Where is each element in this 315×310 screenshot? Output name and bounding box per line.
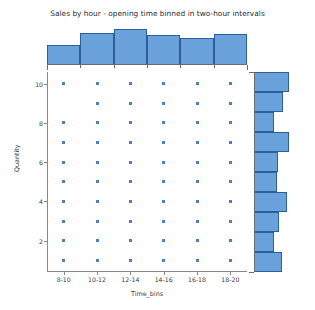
x-axis-tick-label: 18-20 bbox=[221, 276, 239, 283]
scatter-point bbox=[196, 180, 199, 183]
scatter-point bbox=[229, 180, 232, 183]
right-histogram-bar bbox=[254, 252, 282, 272]
y-axis-tick-label: 2 bbox=[39, 237, 43, 244]
x-axis-tick bbox=[130, 272, 131, 275]
right-histogram-bar bbox=[254, 72, 289, 92]
scatter-point bbox=[129, 259, 132, 262]
x-axis-tick bbox=[164, 272, 165, 275]
right-histogram-bar bbox=[254, 172, 277, 192]
scatter-point bbox=[129, 220, 132, 223]
scatter-point bbox=[96, 102, 99, 105]
top-histogram-bar bbox=[114, 29, 147, 65]
top-histogram-bar bbox=[147, 35, 180, 65]
scatter-point bbox=[162, 82, 165, 85]
chart-title: Sales by hour - opening time binned in t… bbox=[0, 9, 315, 18]
scatter-point bbox=[96, 180, 99, 183]
top-histogram-tick bbox=[180, 65, 181, 68]
scatter-point bbox=[162, 102, 165, 105]
x-axis-tick-label: 12-14 bbox=[121, 276, 139, 283]
scatter-point bbox=[96, 121, 99, 124]
scatter-point bbox=[129, 82, 132, 85]
scatter-point bbox=[129, 180, 132, 183]
top-histogram-end-tick bbox=[47, 65, 48, 70]
scatter-point bbox=[62, 200, 65, 203]
scatter-point bbox=[62, 161, 65, 164]
top-histogram-end-tick bbox=[247, 65, 248, 70]
scatter-point bbox=[229, 220, 232, 223]
scatter-point bbox=[196, 259, 199, 262]
scatter-point bbox=[196, 121, 199, 124]
top-histogram-bars bbox=[47, 26, 247, 65]
scatter-point bbox=[96, 141, 99, 144]
joint-plot-figure: Sales by hour - opening time binned in t… bbox=[0, 0, 315, 310]
scatter-point bbox=[196, 220, 199, 223]
right-histogram-end-tick bbox=[249, 272, 254, 273]
scatter-point bbox=[129, 161, 132, 164]
scatter-point bbox=[96, 259, 99, 262]
scatter-point bbox=[96, 200, 99, 203]
scatter-point bbox=[62, 239, 65, 242]
y-axis-tick bbox=[44, 123, 47, 124]
y-axis-title: Quantity bbox=[13, 144, 21, 172]
scatter-point bbox=[162, 141, 165, 144]
scatter-point bbox=[229, 259, 232, 262]
scatter-point bbox=[96, 82, 99, 85]
scatter-point bbox=[96, 161, 99, 164]
scatter-point bbox=[229, 161, 232, 164]
top-histogram-bar bbox=[180, 38, 213, 65]
y-axis-tick bbox=[44, 162, 47, 163]
scatter-point bbox=[196, 200, 199, 203]
scatter-point bbox=[162, 180, 165, 183]
x-axis-tick bbox=[97, 272, 98, 275]
scatter-point bbox=[62, 180, 65, 183]
y-axis-tick-label: 4 bbox=[39, 198, 43, 205]
right-histogram-end-tick bbox=[249, 72, 254, 73]
top-marginal-histogram bbox=[47, 26, 247, 65]
x-axis-tick bbox=[230, 272, 231, 275]
top-histogram-tick bbox=[80, 65, 81, 68]
scatter-point bbox=[162, 259, 165, 262]
scatter-point bbox=[229, 82, 232, 85]
scatter-point bbox=[196, 141, 199, 144]
scatter-point bbox=[129, 121, 132, 124]
scatter-point bbox=[229, 121, 232, 124]
y-axis-tick bbox=[44, 201, 47, 202]
right-histogram-bar bbox=[254, 132, 289, 152]
top-histogram-tick bbox=[214, 65, 215, 68]
scatter-point bbox=[229, 239, 232, 242]
right-histogram-bar bbox=[254, 192, 287, 212]
y-axis-line bbox=[47, 72, 48, 272]
scatter-point bbox=[196, 239, 199, 242]
right-histogram-baseline bbox=[254, 72, 255, 272]
x-axis-tick-label: 10-12 bbox=[88, 276, 106, 283]
scatter-point bbox=[62, 82, 65, 85]
y-axis-tick-label: 6 bbox=[39, 159, 43, 166]
scatter-point bbox=[196, 102, 199, 105]
scatter-point bbox=[96, 220, 99, 223]
scatter-point bbox=[62, 259, 65, 262]
top-histogram-bar bbox=[214, 34, 247, 65]
scatter-point bbox=[62, 141, 65, 144]
y-axis-tick bbox=[44, 84, 47, 85]
right-histogram-bar bbox=[254, 92, 283, 112]
x-axis-tick-label: 14-16 bbox=[155, 276, 173, 283]
top-histogram-tick bbox=[147, 65, 148, 68]
scatter-point bbox=[62, 121, 65, 124]
top-histogram-tick bbox=[114, 65, 115, 68]
scatter-point bbox=[129, 102, 132, 105]
y-axis-tick-label: 10 bbox=[35, 80, 43, 87]
top-histogram-bar bbox=[80, 33, 113, 65]
x-axis-tick-label: 8-10 bbox=[57, 276, 71, 283]
scatter-plot-panel: 2468108-1010-1212-1414-1616-1818-20 bbox=[47, 72, 247, 272]
scatter-point bbox=[62, 220, 65, 223]
right-histogram-bar bbox=[254, 232, 274, 252]
x-axis-tick-label: 16-18 bbox=[188, 276, 206, 283]
right-marginal-histogram bbox=[254, 72, 294, 272]
scatter-point bbox=[196, 82, 199, 85]
x-axis-tick bbox=[197, 272, 198, 275]
scatter-point bbox=[162, 220, 165, 223]
top-histogram-bar bbox=[47, 45, 80, 65]
right-histogram-bar bbox=[254, 112, 274, 132]
y-axis-tick bbox=[44, 241, 47, 242]
scatter-point bbox=[129, 200, 132, 203]
